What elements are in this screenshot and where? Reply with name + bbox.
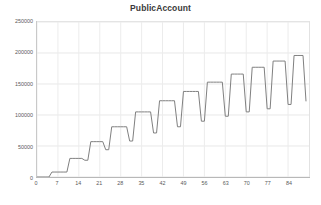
plot-area (36, 21, 310, 178)
y-axis-labels: 050000100000150000200000250000 (0, 21, 33, 178)
x-tick-label: 14 (75, 180, 81, 187)
x-tick-label: 21 (96, 180, 102, 187)
x-tick-label: 84 (286, 180, 292, 187)
y-tick-label: 100000 (0, 112, 33, 118)
x-tick-label: 56 (202, 180, 208, 187)
x-tick-label: 28 (117, 180, 123, 187)
y-tick-label: 200000 (0, 49, 33, 55)
x-axis-labels: 071421283542495663707784 (36, 180, 310, 192)
x-tick-label: 35 (138, 180, 144, 187)
line-series-publicaccount (37, 22, 309, 177)
x-axis-line (36, 177, 310, 178)
x-tick-label: 70 (244, 180, 250, 187)
y-tick-label: 0 (0, 175, 33, 181)
x-tick-label: 7 (56, 180, 59, 187)
y-tick-label: 50000 (0, 144, 33, 150)
x-tick-label: 42 (159, 180, 165, 187)
chart-title: PublicAccount (0, 3, 321, 14)
y-axis-line (36, 21, 37, 178)
x-tick-label: 77 (265, 180, 271, 187)
y-tick-label: 150000 (0, 81, 33, 87)
x-tick-label: 63 (223, 180, 229, 187)
chart-container: PublicAccount 05000010000015000020000025… (0, 0, 321, 205)
series-line (37, 55, 306, 177)
y-tick-label: 250000 (0, 18, 33, 24)
x-tick-label: 0 (35, 180, 38, 187)
x-tick-label: 49 (181, 180, 187, 187)
